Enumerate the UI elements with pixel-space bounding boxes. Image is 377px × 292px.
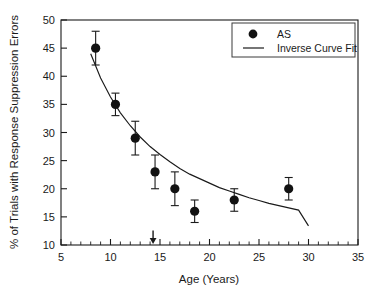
y-tick-label: 45 — [43, 42, 55, 54]
x-tick-label: 15 — [154, 251, 166, 263]
legend: AS Inverse Curve Fit — [232, 23, 357, 57]
legend-marker-as — [249, 30, 258, 39]
y-axis-title: % of Trials with Response Suppression Er… — [8, 15, 20, 249]
error-bars — [92, 31, 293, 222]
y-tick-label: 30 — [43, 127, 55, 139]
arrow-head-icon — [150, 238, 157, 244]
x-axis-tick-labels: 5101520253035 — [58, 251, 364, 263]
data-point-marker — [284, 184, 293, 193]
data-point-markers — [91, 44, 293, 216]
inverse-curve-fit-line — [91, 54, 309, 226]
data-point-marker — [131, 134, 140, 143]
x-tick-label: 5 — [58, 251, 64, 263]
chart-annotations — [150, 230, 157, 244]
x-axis-title: Age (Years) — [179, 273, 239, 285]
chart-canvas: 5101520253035 101520253035404550 Age (Ye… — [0, 0, 377, 292]
y-tick-label: 20 — [43, 183, 55, 195]
x-tick-label: 35 — [352, 251, 364, 263]
y-axis-major-ticks — [61, 20, 67, 245]
chart-figure: 5101520253035 101520253035404550 Age (Ye… — [0, 0, 377, 292]
y-tick-label: 50 — [43, 14, 55, 26]
legend-label-inverse-curve-fit: Inverse Curve Fit — [277, 42, 357, 54]
x-tick-label: 25 — [253, 251, 265, 263]
data-point-marker — [150, 167, 159, 176]
x-tick-label: 10 — [104, 251, 116, 263]
x-tick-label: 20 — [203, 251, 215, 263]
data-point-marker — [190, 207, 199, 216]
data-point-marker — [170, 184, 179, 193]
data-point-marker — [91, 44, 100, 53]
y-tick-label: 15 — [43, 211, 55, 223]
data-point-marker — [111, 100, 120, 109]
y-tick-label: 35 — [43, 98, 55, 110]
x-axis-major-ticks — [61, 239, 358, 245]
y-tick-label: 10 — [43, 239, 55, 251]
data-point-marker — [230, 195, 239, 204]
y-axis-tick-labels: 101520253035404550 — [43, 14, 55, 251]
arrow-annotation — [150, 230, 157, 244]
legend-label-as: AS — [277, 28, 291, 40]
x-tick-label: 30 — [302, 251, 314, 263]
y-tick-label: 25 — [43, 155, 55, 167]
y-tick-label: 40 — [43, 70, 55, 82]
